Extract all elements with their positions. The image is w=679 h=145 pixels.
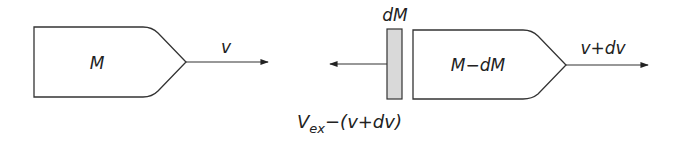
- exhaust-subscript-ex: ex: [309, 121, 325, 136]
- mass-label-M-minus-dM: M−dM: [451, 55, 506, 75]
- mass-label-dM: dM: [382, 5, 408, 25]
- rocket-body-before: [34, 27, 186, 97]
- mass-label-M: M: [90, 53, 105, 73]
- velocity-label-v-plus-dv: v+dv: [580, 38, 626, 58]
- rocket-before: M v: [34, 27, 268, 97]
- exhaust-velocity-label: Vex−(v+dv): [297, 111, 402, 136]
- exhaust-relative-term: −(v+dv): [325, 111, 402, 132]
- ejected-mass: dM Vex−(v+dv): [297, 5, 408, 136]
- rocket-diagram: M v dM Vex−(v+dv) M−dM v+dv: [0, 0, 679, 145]
- ejected-mass-block: [387, 29, 402, 99]
- velocity-label-v: v: [221, 37, 232, 57]
- rocket-after: M−dM v+dv: [413, 30, 648, 99]
